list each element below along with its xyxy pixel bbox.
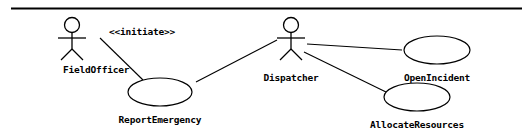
actor-field-officer[interactable] (58, 18, 86, 61)
use-case-allocate-resources[interactable] (384, 83, 450, 111)
association-dispatcher-open-incident (307, 44, 402, 50)
association-lines (100, 38, 402, 92)
use-case-label-open-incident: OpenIncident (404, 73, 470, 83)
use-case-label-allocate-resources: AllocateResources (370, 120, 464, 130)
actor-leg-left-line (61, 49, 72, 60)
actor-leg-left-line (280, 49, 291, 60)
actor-head-icon (65, 18, 80, 33)
use-case-label-report-emergency: ReportEmergency (119, 115, 202, 125)
actor-label-dispatcher: Dispatcher (263, 73, 318, 83)
actor-leg-right-line (72, 49, 83, 60)
stereotype-label-initiate: <<initiate>> (109, 27, 175, 37)
actor-leg-right-line (291, 49, 302, 60)
actor-label-field-officer: FieldOfficer (63, 65, 129, 75)
use-case-open-incident[interactable] (404, 36, 470, 64)
use-case-report-emergency[interactable] (128, 78, 192, 106)
actor-dispatcher[interactable] (277, 18, 305, 61)
uml-use-case-diagram: FieldOfficer Dispatcher ReportEmergency … (0, 0, 530, 135)
actor-head-icon (284, 18, 299, 33)
